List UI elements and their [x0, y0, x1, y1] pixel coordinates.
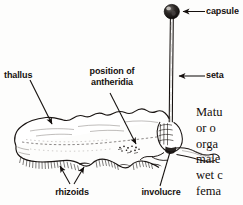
- body-line: male: [196, 152, 243, 168]
- leader-thallus: [30, 80, 52, 124]
- antheridia-speckles: [118, 145, 140, 153]
- leader-lines: [30, 12, 205, 187]
- label-involucre: involucre: [131, 187, 191, 198]
- leader-rhizoids-left: [60, 166, 70, 184]
- body-line: orga: [196, 137, 243, 153]
- body-line: or o: [196, 121, 243, 137]
- label-position-of-antheridia-line2: antheridia: [79, 77, 145, 88]
- body-line: wet c: [196, 168, 243, 184]
- capsule-shape: [164, 4, 179, 18]
- body-line: Matu: [196, 105, 243, 121]
- botanical-figure: capsule seta thallus position of antheri…: [0, 0, 243, 205]
- label-capsule: capsule: [206, 6, 239, 17]
- label-thallus: thallus: [4, 70, 32, 81]
- label-position-of-antheridia-line1: position of: [79, 66, 145, 77]
- label-seta: seta: [206, 70, 224, 81]
- label-position-of-antheridia: position of antheridia: [79, 66, 145, 87]
- leader-involucre: [160, 152, 170, 186]
- body-paragraph: Matu or o orga male wet c fema: [196, 105, 243, 205]
- thallus-body: [15, 109, 170, 171]
- body-line: fema: [196, 184, 243, 200]
- seta-stalk: [169, 18, 173, 141]
- label-rhizoids: rhizoids: [44, 187, 100, 198]
